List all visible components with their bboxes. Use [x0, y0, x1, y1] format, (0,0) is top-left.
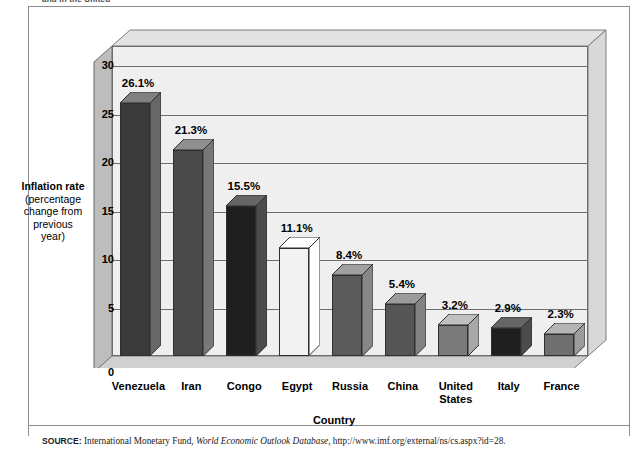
bar-value-label: 21.3% [175, 124, 208, 136]
source-note: SOURCE: International Monetary Fund, Wor… [42, 436, 506, 446]
x-tick-label-line: France [529, 380, 594, 393]
y-axis-title-line: Inflation rate [16, 180, 90, 193]
x-tick-label: France [529, 380, 594, 393]
bar-congo[interactable]: 15.5% [226, 195, 256, 356]
x-tick-label-line: States [423, 393, 488, 406]
y-tick-label: 0 [108, 366, 114, 378]
bar-value-label: 15.5% [228, 180, 261, 192]
bar-side-face [309, 237, 320, 356]
bar-china[interactable]: 5.4% [385, 293, 415, 356]
figure-caption: and in the United [42, 0, 110, 3]
bar-value-label: 8.4% [336, 249, 362, 261]
bar-side-face [256, 195, 267, 356]
bar-top-face [120, 92, 150, 103]
bar-top-face [279, 237, 309, 248]
bar-front-face [385, 304, 415, 356]
bar-top-face [173, 139, 203, 150]
y-axis-title: Inflation rate (percentage change from p… [16, 180, 90, 243]
bar-side-face [150, 92, 161, 356]
bar-top-face [544, 323, 574, 334]
source-label: SOURCE: [42, 436, 82, 446]
bar-front-face [438, 325, 468, 356]
bar-top-face [491, 317, 521, 328]
bar-front-face [491, 328, 521, 356]
bar-top-face [332, 264, 362, 275]
bar-side-face [574, 323, 585, 356]
bar-egypt[interactable]: 11.1% [279, 237, 309, 356]
bar-value-label: 2.3% [548, 308, 574, 320]
x-axis-title: Country [84, 414, 584, 426]
source-text-after: , http://www.imf.org/external/ns/cs.aspx… [328, 436, 505, 446]
bar-front-face [544, 334, 574, 356]
bar-front-face [332, 275, 362, 356]
y-axis-title-line: (percentage [16, 193, 90, 206]
bar-value-label: 2.9% [495, 302, 521, 314]
bar-front-face [279, 248, 309, 356]
bar-top-face [438, 314, 468, 325]
bar-top-face [226, 195, 256, 206]
y-axis-title-line: previous [16, 218, 90, 231]
bar-iran[interactable]: 21.3% [173, 139, 203, 356]
bar-value-label: 26.1% [122, 77, 155, 89]
bar-france[interactable]: 2.3% [544, 323, 574, 356]
y-axis-title-line: year) [16, 230, 90, 243]
bar-italy[interactable]: 2.9% [491, 317, 521, 356]
bar-russia[interactable]: 8.4% [332, 264, 362, 356]
bar-front-face [173, 150, 203, 356]
bar-side-face [415, 293, 426, 356]
bar-front-face [226, 206, 256, 356]
source-title: World Economic Outlook Database [196, 436, 328, 446]
bars-layer: 26.1%21.3%15.5%11.1%8.4%5.4%3.2%2.9%2.3% [112, 46, 588, 356]
bar-side-face [468, 314, 479, 356]
bar-venezuela[interactable]: 26.1% [120, 92, 150, 356]
source-text-before: International Monetary Fund, [82, 436, 196, 446]
bar-value-label: 11.1% [281, 222, 313, 234]
bar-chart: 30 25 20 15 10 5 0 Inflation rate (perce… [84, 28, 612, 368]
bar-front-face [120, 103, 150, 356]
bar-value-label: 5.4% [389, 278, 415, 290]
bar-united-states[interactable]: 3.2% [438, 314, 468, 356]
bar-side-face [362, 264, 373, 356]
x-axis: VenezuelaIranCongoEgyptRussiaChinaUnited… [112, 380, 602, 414]
bar-side-face [203, 139, 214, 356]
frame-border-right [629, 6, 630, 436]
bar-side-face [521, 317, 532, 356]
bar-top-face [385, 293, 415, 304]
frame-border-top [28, 6, 630, 7]
bar-value-label: 3.2% [442, 299, 468, 311]
y-axis-title-line: change from [16, 205, 90, 218]
